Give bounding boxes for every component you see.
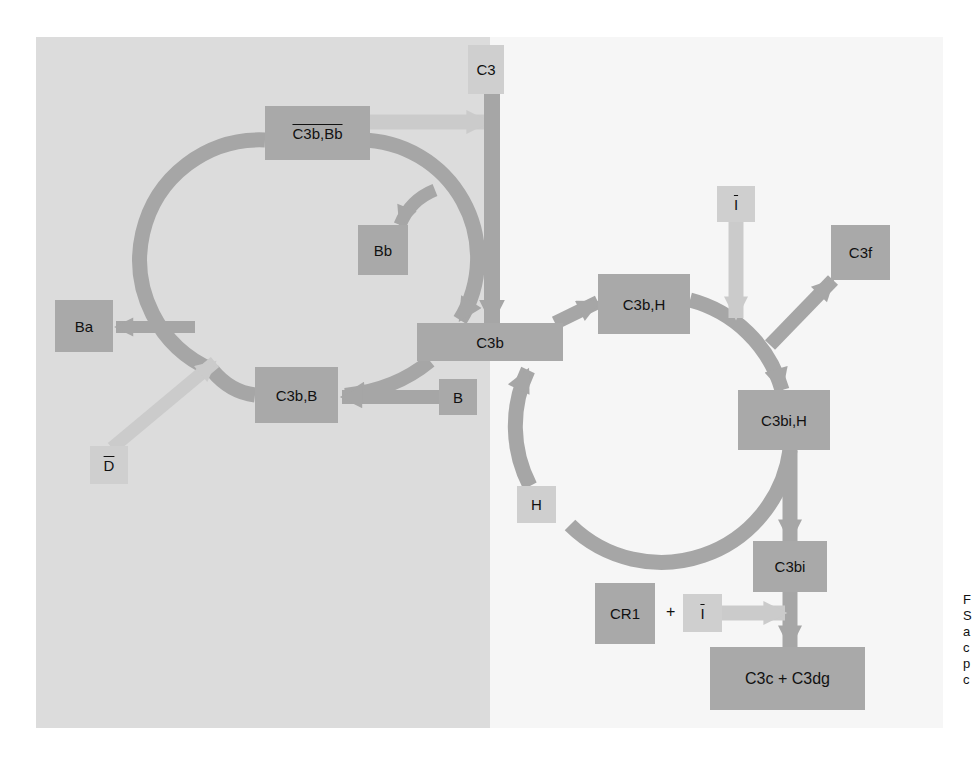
node-h: H bbox=[517, 486, 556, 523]
node-c3bi-h: C3bi,H bbox=[738, 390, 830, 450]
node-c3bi-h-label: C3bi,H bbox=[761, 412, 807, 429]
node-b: B bbox=[439, 379, 477, 415]
node-i-top-label: I bbox=[734, 196, 738, 213]
d-input-arrow bbox=[112, 362, 215, 448]
caption-line: c bbox=[963, 672, 973, 688]
node-c3f-label: C3f bbox=[849, 244, 872, 261]
caption-line: a bbox=[963, 624, 973, 640]
node-c3b-bb-label: C3b,Bb bbox=[292, 125, 342, 142]
node-c3b-h-label: C3b,H bbox=[623, 296, 666, 313]
c3b-to-c3bh-arrow bbox=[555, 302, 598, 323]
node-c3b-h: C3b,H bbox=[598, 274, 690, 334]
node-i-bottom: I bbox=[683, 594, 722, 632]
right-loop-arc-left bbox=[515, 370, 530, 486]
bb-release-arrow bbox=[400, 190, 435, 225]
plus-sign: + bbox=[666, 603, 675, 621]
node-d: D bbox=[90, 446, 128, 484]
node-c3bi-label: C3bi bbox=[775, 558, 806, 575]
node-c3b-label: C3b bbox=[476, 334, 504, 351]
node-cr1-label: CR1 bbox=[610, 605, 640, 622]
node-i-top: I bbox=[717, 186, 755, 222]
node-c3b-bb: C3b,Bb bbox=[265, 106, 370, 160]
left-loop-arc-lower bbox=[212, 370, 255, 395]
node-c3-label: C3 bbox=[476, 61, 495, 78]
caption-line: p bbox=[963, 656, 973, 672]
node-c3b: C3b bbox=[417, 323, 563, 361]
caption-line: c bbox=[963, 640, 973, 656]
node-ba: Ba bbox=[55, 300, 113, 352]
caption-line: F bbox=[963, 592, 973, 608]
c3b-to-c3bb-arrow bbox=[345, 361, 430, 395]
node-c3c-c3dg: C3c + C3dg bbox=[710, 647, 865, 710]
pathway-arrows bbox=[0, 0, 973, 759]
node-cr1: CR1 bbox=[595, 583, 655, 644]
node-c3: C3 bbox=[468, 45, 504, 94]
node-i-bottom-label: I bbox=[700, 605, 704, 622]
node-c3bi: C3bi bbox=[753, 541, 827, 592]
node-c3b-b: C3b,B bbox=[255, 367, 338, 423]
node-h-label: H bbox=[531, 496, 542, 513]
c3f-release-arrow bbox=[770, 280, 833, 345]
figure-caption-fragment: F S a c p c bbox=[963, 592, 973, 688]
node-ba-label: Ba bbox=[75, 318, 93, 335]
node-bb-label: Bb bbox=[374, 242, 392, 259]
node-bb: Bb bbox=[358, 225, 408, 275]
node-c3b-b-label: C3b,B bbox=[276, 387, 318, 404]
node-c3c-c3dg-label: C3c + C3dg bbox=[745, 670, 830, 688]
node-c3f: C3f bbox=[831, 225, 890, 280]
node-b-label: B bbox=[453, 389, 463, 406]
left-loop-arc-upper-left bbox=[140, 140, 265, 370]
caption-line: S bbox=[963, 608, 973, 624]
node-d-label: D bbox=[104, 457, 115, 474]
